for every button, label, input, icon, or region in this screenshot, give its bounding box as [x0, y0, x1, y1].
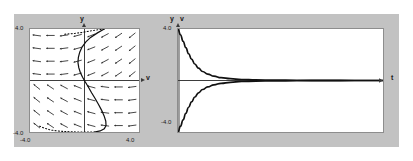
phase-plane-svg [30, 29, 139, 132]
field-arrowhead [46, 73, 48, 75]
time-series-curve-v [178, 81, 383, 133]
phase-plane-panel [29, 28, 140, 133]
right-y-max-label: 4.0 [163, 25, 171, 31]
field-arrowhead [114, 99, 116, 101]
field-arrowhead [114, 86, 116, 88]
left-x-max-label: 4.0 [126, 137, 134, 143]
left-y-axis-arrowhead [82, 23, 86, 27]
field-arrowhead [46, 60, 48, 62]
right-y-axis-label: y [170, 15, 174, 22]
left-x-min-label: -4.0 [20, 137, 30, 143]
figure-container: 4.0 -4.0 -4.0 4.0 y v 4.0 -4.0 y v t [0, 0, 413, 161]
field-arrowhead [46, 34, 48, 36]
left-y-min-label: -4.0 [13, 130, 23, 136]
right-y-axis-arrowhead [176, 23, 180, 27]
left-y-max-label: 4.0 [15, 25, 23, 31]
time-series-svg [178, 29, 383, 132]
phase-trajectory-dotted-run [63, 29, 105, 34]
left-v-axis-label: v [146, 74, 150, 81]
time-series-panel [177, 28, 384, 133]
field-arrowhead [46, 47, 48, 49]
right-y-min-label: -4.0 [161, 119, 171, 125]
right-t-axis-label: t [391, 74, 393, 81]
field-arrowhead [114, 125, 116, 127]
left-y-axis-label: y [80, 15, 84, 22]
left-v-axis-arrowhead [141, 78, 145, 82]
field-arrowhead [114, 112, 116, 114]
time-series-curve-y [178, 29, 383, 81]
t-axis-arrowhead [379, 78, 383, 83]
right-v-axis-label: v [180, 15, 184, 22]
